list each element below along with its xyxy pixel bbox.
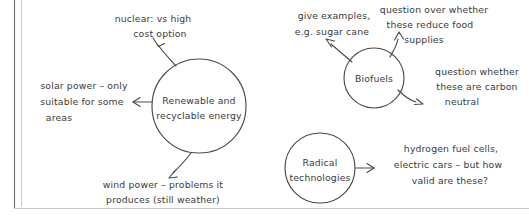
node-radical-technologies[interactable]: Radical technologies [285,133,355,203]
connector-line [390,39,398,57]
annotation-solar-power: solar power – only suitable for some are… [40,80,128,123]
connector-line [173,153,191,173]
annotation-solar-line-3: areas [46,112,72,123]
connector-renewable-to-wind [169,153,191,178]
connector-biofuels-to-carbon-neutral [398,90,423,105]
annotation-nuclear-line-2: cost option [133,28,186,39]
annotation-carbon-line-2: these are carbon [436,81,517,92]
node-radical-label-line1: Radical [303,157,338,168]
annotation-wind-power: wind power – problems it produces (still… [103,179,224,205]
annotation-carbon-neutral: question whether these are carbon neutra… [435,66,519,107]
node-radical-label-line2: technologies [289,172,350,183]
connector-line [398,90,416,102]
node-renewable-label-line2: recyclable energy [156,110,242,121]
node-biofuels-label-line1: Biofuels [355,73,393,84]
node-renewable-label-line1: Renewable and [162,95,235,106]
annotation-wind-line-1: wind power – problems it [103,179,224,190]
connector-line [158,45,176,66]
annotation-carbon-line-1: question whether [435,66,519,77]
connector-radical-to-hydrogen [356,164,374,173]
connector-renewable-to-solar [133,98,152,107]
annotation-carbon-line-3: neutral [445,96,479,107]
arrowhead-icon [169,171,178,179]
annotation-solar-line-2: suitable for some [40,96,124,107]
mind-map-page: Renewable and recyclable energy Biofuels… [0,0,529,218]
connector-biofuels-to-examples [326,39,352,62]
annotation-nuclear: nuclear: vs high cost option [115,13,192,39]
annotation-food-supplies: question over whether these reduce food … [380,4,488,45]
connector-line [331,44,352,62]
annotation-food-line-1: question over whether [380,4,488,15]
annotation-hydrogen-fuel-cells: hydrogen fuel cells, electric cars – but… [394,143,503,186]
annotation-solar-line-1: solar power – only [40,80,128,91]
annotation-nuclear-line-1: nuclear: vs high [115,13,192,24]
annotation-hydrogen-line-2: electric cars – but how [394,159,503,170]
annotation-wind-line-2: produces (still weather) [106,194,220,205]
node-biofuels[interactable]: Biofuels [344,48,404,108]
connector-renewable-to-nuclear [153,38,176,66]
node-renewable-circle [152,59,246,153]
arrowhead-icon [395,32,404,40]
node-renewable[interactable]: Renewable and recyclable energy [152,59,246,153]
mind-map-canvas: Renewable and recyclable energy Biofuels… [0,0,529,218]
annotation-examples-line-2: e.g. sugar cane [295,26,369,37]
annotation-hydrogen-line-1: hydrogen fuel cells, [404,143,498,154]
annotation-examples-line-1: give examples, [298,10,371,21]
annotation-give-examples: give examples, e.g. sugar cane [295,10,370,37]
annotation-hydrogen-line-3: valid are these? [412,175,488,186]
annotation-food-line-2: these reduce food [387,19,474,30]
node-radical-circle [285,133,355,203]
connector-biofuels-to-food-supplies [390,32,404,57]
annotation-food-line-3: supplies [404,34,443,45]
